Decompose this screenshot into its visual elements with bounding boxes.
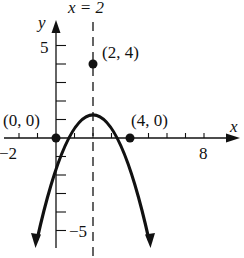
y-tick-label-5: 5 [40,38,49,57]
x-axis-label: x [229,117,238,136]
point-root [126,134,135,143]
x-tick-label-neg2: −2 [0,144,17,163]
point-root-label: (4, 0) [131,111,168,130]
x-axis-ticks [19,133,204,138]
point-origin [52,134,61,143]
axis-of-symmetry-label: x = 2 [67,0,105,17]
point-vertex-label: (2, 4) [102,43,139,62]
parabola-chart: x −2 8 y 5 −5 x = 2 (0, 0) (2, 4) ( [0,0,244,258]
point-origin-label: (0, 0) [3,111,40,130]
point-vertex [89,60,98,69]
y-axis-arrow-icon [52,20,61,33]
curve-left-arrow-icon [31,233,41,248]
y-tick-label-neg5: −5 [69,222,87,241]
x-tick-label-8: 8 [199,144,208,163]
y-axis-label: y [36,13,46,32]
curve-right-arrow-icon [145,233,155,248]
